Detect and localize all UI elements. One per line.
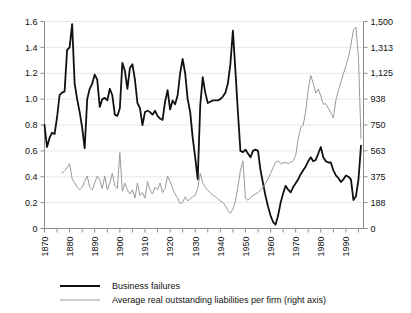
axis-labels: 00.20.40.60.81.01.21.41.6018837556375093… [25,17,393,257]
x-tick-label: 1880 [65,237,75,257]
y-right-tick-label: 1,125 [371,68,394,78]
y-right-tick-label: 375 [371,172,386,182]
x-tick-label: 1890 [90,237,100,257]
chart-figure: 00.20.40.60.81.01.21.41.6018837556375093… [0,0,411,313]
series-line-avg-real-liabilities [62,27,361,213]
x-tick-label: 1930 [191,237,201,257]
y-left-tick-label: 1.2 [25,68,38,78]
x-tick-label: 1910 [140,237,150,257]
y-right-tick-label: 563 [371,146,386,156]
x-tick-label: 1950 [241,237,251,257]
y-left-tick-label: 1.0 [25,94,38,104]
chart-legend: Business failuresAverage real outstandin… [60,281,326,305]
legend-label-1: Average real outstanding liabilities per… [112,295,326,305]
y-left-tick-label: 0 [32,224,37,234]
axis-ticks [41,22,368,233]
y-left-tick-label: 1.4 [25,43,38,53]
x-tick-label: 1870 [40,237,50,257]
series-line-business-failures [45,24,361,225]
x-tick-label: 1980 [316,237,326,257]
y-right-tick-label: 1,500 [371,17,394,27]
y-left-tick-label: 0.2 [25,198,38,208]
y-left-tick-label: 1.6 [25,17,38,27]
y-right-tick-label: 1,313 [371,43,394,53]
x-tick-label: 1960 [266,237,276,257]
y-right-tick-label: 938 [371,94,386,104]
x-tick-label: 1970 [291,237,301,257]
y-right-tick-label: 188 [371,198,386,208]
y-right-tick-label: 750 [371,120,386,130]
x-tick-label: 1940 [216,237,226,257]
y-right-tick-label: 0 [371,224,376,234]
data-series [45,24,361,225]
chart-canvas: 00.20.40.60.81.01.21.41.6018837556375093… [0,0,411,313]
y-left-tick-label: 0.6 [25,146,38,156]
x-tick-label: 1920 [165,237,175,257]
y-left-tick-label: 0.4 [25,172,38,182]
y-left-tick-label: 0.8 [25,120,38,130]
x-tick-label: 1900 [115,237,125,257]
x-tick-label: 1990 [341,237,351,257]
gridlines [45,22,364,203]
legend-label-0: Business failures [112,281,181,291]
